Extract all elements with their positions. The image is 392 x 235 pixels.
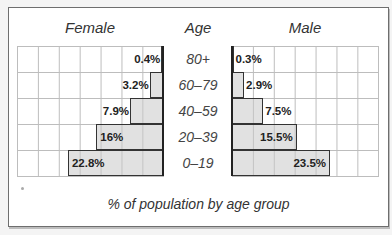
age-header: Age bbox=[165, 19, 231, 37]
female-value-label: 3.2% bbox=[122, 72, 148, 98]
age-label: 20–39 bbox=[165, 124, 231, 150]
age-label: 60–79 bbox=[165, 72, 231, 98]
male-bar bbox=[232, 72, 244, 98]
female-value-label: 7.9% bbox=[103, 98, 129, 124]
male-bar bbox=[232, 98, 263, 124]
male-value-label: 2.9% bbox=[246, 72, 272, 98]
age-label: 80+ bbox=[165, 46, 231, 72]
male-axis bbox=[231, 46, 233, 176]
male-value-label: 0.3% bbox=[236, 46, 262, 72]
female-bar bbox=[150, 72, 163, 98]
age-label: 40–59 bbox=[165, 98, 231, 124]
male-value-label: 7.5% bbox=[265, 98, 291, 124]
marker-dot bbox=[21, 187, 24, 190]
male-header: Male bbox=[232, 19, 378, 37]
female-header: Female bbox=[17, 19, 163, 37]
female-value-label: 22.8% bbox=[72, 150, 105, 176]
female-value-label: 0.4% bbox=[134, 46, 160, 72]
female-bar bbox=[130, 98, 163, 124]
female-axis bbox=[162, 46, 164, 176]
female-value-label: 16% bbox=[100, 124, 123, 150]
male-value-label: 15.5% bbox=[260, 124, 293, 150]
chart-caption: % of population by age group bbox=[8, 196, 389, 212]
age-label: 0–19 bbox=[165, 150, 231, 176]
male-value-label: 23.5% bbox=[293, 150, 326, 176]
